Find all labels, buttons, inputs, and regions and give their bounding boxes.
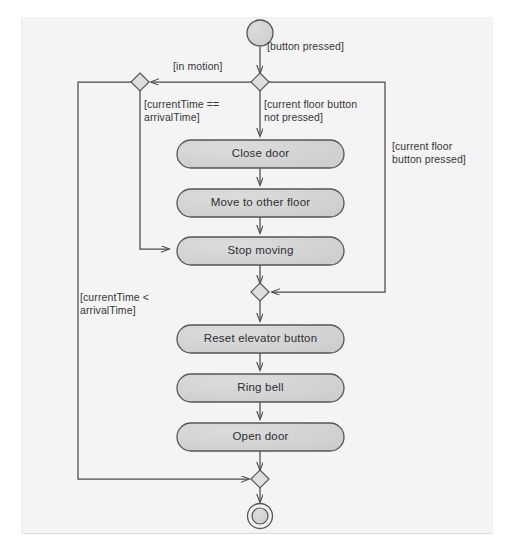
guard-button-pressed: [button pressed] — [267, 40, 344, 53]
decision-left-merge — [131, 73, 149, 91]
activity-diagram-canvas — [0, 0, 515, 547]
guard-current-time-less-than-arrival-time: [currentTime < arrivalTime] — [80, 291, 149, 316]
guard-in-motion: [in motion] — [173, 60, 223, 73]
page-canvas: Close door Move to other floor Stop movi… — [0, 0, 515, 547]
guard-current-floor-button-pressed: [current floor button pressed] — [392, 140, 466, 165]
decision-top — [251, 73, 269, 91]
action-label-open-door: Open door — [177, 430, 344, 442]
decision-bottom-merge — [251, 470, 269, 488]
action-label-close-door: Close door — [177, 147, 344, 159]
guard-current-time-equals-arrival-time: [currentTime == arrivalTime] — [144, 98, 219, 123]
action-label-reset-elevator-button: Reset elevator button — [177, 332, 344, 344]
action-label-ring-bell: Ring bell — [177, 381, 344, 393]
guard-current-floor-button-not-pressed: [current floor button not pressed] — [264, 98, 357, 123]
action-label-stop-moving: Stop moving — [177, 244, 344, 256]
final-node-inner-disc — [252, 508, 268, 524]
action-label-move-to-other-floor: Move to other floor — [177, 196, 344, 208]
decision-middle-merge — [251, 283, 269, 301]
